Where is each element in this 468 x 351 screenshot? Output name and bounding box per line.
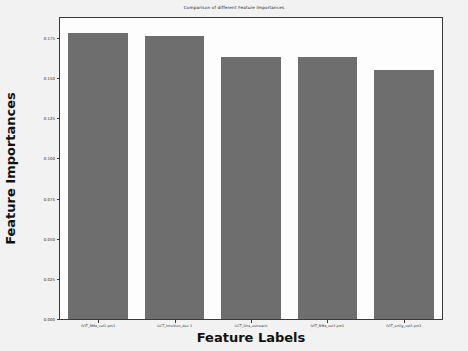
x-axis-tick-mark xyxy=(251,319,252,323)
y-axis-tick-mark xyxy=(57,38,61,39)
bar xyxy=(221,57,281,319)
bar xyxy=(298,57,358,319)
y-axis-tick-mark xyxy=(57,118,61,119)
y-axis-tick-label: 0.175 xyxy=(44,35,55,40)
y-axis-tick-mark xyxy=(57,279,61,280)
bar xyxy=(374,70,434,319)
y-axis-tick-mark xyxy=(57,199,61,200)
x-axis-tick-label: IVIT_enVg_vel3 pm1 xyxy=(386,324,421,328)
bar xyxy=(68,33,128,319)
plot-frame: 0.0000.0250.0500.0750.1000.1250.1500.175… xyxy=(59,17,443,320)
y-axis-tick-label: 0.100 xyxy=(44,156,55,161)
y-axis-tick-mark xyxy=(57,158,61,159)
plot-area xyxy=(60,18,442,319)
chart-title: Comparison of different Feature Importan… xyxy=(0,5,468,10)
bar xyxy=(145,36,205,319)
y-axis-tick-label: 0.075 xyxy=(44,196,55,201)
y-axis-tick-label: 0.000 xyxy=(44,317,55,322)
bar-chart-figure: Comparison of different Feature Importan… xyxy=(0,0,468,351)
y-axis-tick-mark xyxy=(57,239,61,240)
x-axis-title: Feature Labels xyxy=(59,330,443,345)
x-axis-tick-mark xyxy=(327,319,328,323)
x-axis-tick-mark xyxy=(98,319,99,323)
y-axis-tick-label: 0.050 xyxy=(44,236,55,241)
x-axis-tick-label: IVIT_RMa_vel3 pm1 xyxy=(310,324,344,328)
y-axis-tick-label: 0.150 xyxy=(44,76,55,81)
y-axis-tick-label: 0.025 xyxy=(44,276,55,281)
x-axis-tick-mark xyxy=(175,319,176,323)
y-axis-tick-mark xyxy=(57,78,61,79)
y-axis-tick-label: 0.125 xyxy=(44,116,55,121)
x-axis-tick-label: OCT_Intuition_dev 1 xyxy=(157,324,192,328)
y-axis-tick-mark xyxy=(57,319,61,320)
x-axis-tick-label: OCT_Dhs_outreach xyxy=(235,324,268,328)
y-axis-title: Feature Importances xyxy=(2,17,19,320)
x-axis-tick-mark xyxy=(404,319,405,323)
x-axis-tick-label: IVIT_RMa_vel1 pm1 xyxy=(81,324,115,328)
